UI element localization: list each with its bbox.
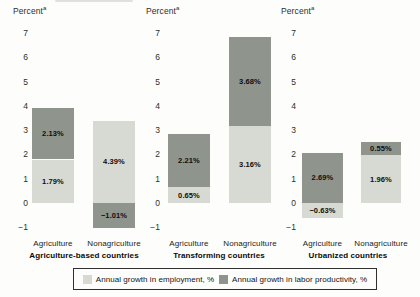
y-axis-footnote-marker: a [176,5,179,11]
bar-segment-employment: 1.79% [32,160,74,203]
y-axis-tick-label: 3 [272,125,296,135]
y-axis-tick-label: 0 [272,198,296,208]
y-axis-tick-label: 1 [136,174,160,184]
y-axis-tick-label: 3 [136,125,160,135]
y-axis-tick-label: 1 [4,174,28,184]
bar-segment-productivity: 0.55% [361,142,401,155]
legend-item-employment: Annual growth in employment, % [83,275,214,284]
bar-segment-employment: −0.63% [302,203,343,218]
bar-value-label: 1.96% [361,155,401,203]
y-axis-tick-label: 3 [4,125,28,135]
chart-canvas: Percenta76543210−11.79%2.13%Agriculture−… [0,0,420,297]
y-axis-tick-label: 5 [272,77,296,87]
bar-value-label: 0.65% [168,187,210,203]
y-axis-title-text: Percent [146,6,176,16]
productivity-swatch-icon [219,275,228,284]
legend: Annual growth in employment, % Annual gr… [73,268,377,290]
bar-segment-employment: 3.16% [229,126,271,203]
legend-label-productivity: Annual growth in labor productivity, % [232,275,367,284]
bar-value-label: 2.21% [168,134,210,188]
bar-value-label: −0.63% [302,203,343,218]
y-axis-tick-label: 7 [4,28,28,38]
bar-value-label: 0.55% [361,142,401,155]
bar-segment-productivity: 2.21% [168,134,210,188]
bar-segment-productivity: 2.13% [32,108,74,160]
y-axis-tick-label: 2 [136,149,160,159]
y-axis-tick-label: 6 [272,52,296,62]
panel-caption: Agriculture-based countries [29,251,138,260]
x-axis-category-label: Nonagriculture [87,239,140,248]
bar-value-label: 3.16% [229,126,271,203]
y-axis-tick-label: 5 [4,77,28,87]
x-axis-category-label: Nonagriculture [223,239,276,248]
bar-value-label: 4.39% [93,121,135,203]
y-axis-tick-label: −1 [4,222,28,232]
y-axis-tick-label: 0 [136,198,160,208]
y-axis-tick-label: 2 [4,149,28,159]
y-axis-tick-label: 6 [4,52,28,62]
cropped-title-artifact [55,0,133,2]
y-axis-tick-label: −1 [272,222,296,232]
legend-label-employment: Annual growth in employment, % [96,275,214,284]
y-axis-tick-label: 1 [272,174,296,184]
legend-item-productivity: Annual growth in labor productivity, % [219,275,367,284]
x-axis-category-label: Agriculture [169,239,208,248]
y-axis-tick-label: 4 [136,101,160,111]
y-axis-tick-label: −1 [136,222,160,232]
y-axis-tick-label: 0 [4,198,28,208]
bar-segment-employment: 1.96% [361,155,401,203]
bar-segment-productivity: 3.68% [229,37,271,126]
bar-segment-productivity: −1.01% [93,203,135,228]
y-axis-footnote-marker: a [311,5,314,11]
bar-segment-employment: 4.39% [93,121,135,203]
bar-value-label: 1.79% [32,160,74,203]
panel-caption: Transforming countries [173,251,265,260]
employment-swatch-icon [83,275,92,284]
bar-value-label: −1.01% [93,203,135,228]
y-axis-title-text: Percent [281,6,311,16]
y-axis-title: Percenta [146,6,179,16]
y-axis-tick-label: 5 [136,77,160,87]
y-axis-tick-label: 6 [136,52,160,62]
y-axis-footnote-marker: a [43,5,46,11]
y-axis-title: Percenta [13,6,46,16]
y-axis-tick-label: 4 [4,101,28,111]
bar-segment-employment: 0.65% [168,187,210,203]
x-axis-category-label: Agriculture [303,239,342,248]
bar-segment-productivity: 2.69% [302,153,343,203]
y-axis-title-text: Percent [13,6,43,16]
bar-value-label: 3.68% [229,37,271,126]
bar-value-label: 2.69% [302,153,343,203]
y-axis-tick-label: 2 [272,149,296,159]
bar-value-label: 2.13% [32,108,74,160]
y-axis-tick-label: 7 [272,28,296,38]
x-axis-category-label: Agriculture [33,239,72,248]
x-axis-category-label: Nonagriculture [354,239,407,248]
panel-caption: Urbanized countries [309,251,388,260]
y-axis-tick-label: 4 [272,101,296,111]
y-axis-tick-label: 7 [136,28,160,38]
y-axis-title: Percenta [281,6,314,16]
